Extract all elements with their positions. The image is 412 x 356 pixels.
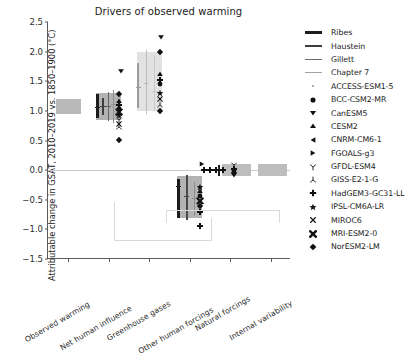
model-marker-hadgem3-gc31-ll: [200, 166, 208, 174]
legend-row-access-esm1-5[interactable]: ACCESS-ESM1-5: [300, 80, 408, 93]
legend-label: CESM2: [326, 122, 358, 131]
model-marker-canesm5: [158, 34, 166, 42]
zero-reference-line: [48, 170, 290, 171]
y-tick-label: 1.5: [29, 76, 48, 86]
legend-row-miroc6[interactable]: MIROC6: [300, 213, 408, 226]
legend-marker-point-icon: [300, 84, 326, 88]
study-range-bar: [113, 90, 114, 123]
y-tick-label: 0.5: [29, 136, 48, 146]
legend-line-swatch-icon: [300, 45, 326, 47]
legend-row-canesm5[interactable]: CanESM5: [300, 106, 408, 119]
legend-label: Haustein: [326, 42, 365, 51]
legend-marker-plus-filled-icon: [300, 189, 326, 197]
study-best-estimate-tick: [184, 196, 189, 197]
legend-row-fgoals-g3[interactable]: FGOALS-g3: [300, 147, 408, 160]
x-tick-mark: [109, 258, 110, 262]
legend-label: CanESM5: [326, 109, 367, 118]
chart-legend: RibesHausteinGillettChapter 7ACCESS-ESM1…: [300, 26, 408, 254]
model-marker-canesm5: [231, 172, 239, 180]
study-best-estimate-tick: [176, 186, 181, 187]
y-tick-label: −1.5: [22, 254, 48, 264]
legend-label: GISS-E2-1-G: [326, 175, 378, 184]
legend-label: ACCESS-ESM1-5: [326, 82, 393, 91]
legend-marker-tri-up-icon: [300, 176, 326, 184]
study-best-estimate-tick: [136, 87, 141, 88]
study-best-estimate-tick: [95, 107, 100, 108]
x-tick-mark: [149, 258, 150, 262]
legend-marker-triangle-right-icon: [300, 149, 326, 157]
x-tick-mark: [190, 258, 191, 262]
legend-label: MRI-ESM2-0: [326, 229, 377, 238]
study-best-estimate-tick: [100, 106, 105, 107]
legend-label: Chapter 7: [326, 68, 369, 77]
y-tick-label: −1.0: [22, 224, 48, 234]
model-marker-hadgem3-gc31-ll: [206, 166, 214, 174]
ghost-bracket-right: [166, 210, 280, 223]
legend-label: MIROC6: [326, 216, 362, 225]
legend-row-cnrm-cm6-1[interactable]: CNRM-CM6-1: [300, 133, 408, 146]
legend-row-bcc-csm2-mr[interactable]: BCC-CSM2-MR: [300, 93, 408, 106]
model-marker-hadgem3-gc31-ll: [219, 166, 227, 174]
legend-label: GFDL-ESM4: [326, 162, 376, 171]
legend-line-swatch-icon: [300, 31, 326, 34]
model-marker-noresm2-lm: [116, 136, 124, 144]
model-marker-canesm5: [117, 67, 125, 75]
legend-row-ribes[interactable]: Ribes: [300, 26, 408, 39]
legend-row-chapter-7[interactable]: Chapter 7: [300, 66, 408, 79]
legend-row-haustein[interactable]: Haustein: [300, 39, 408, 52]
legend-line-swatch-icon: [300, 59, 326, 61]
legend-marker-diamond-icon: [300, 243, 326, 251]
study-range-bar: [96, 94, 99, 118]
legend-line-swatch-icon: [300, 72, 326, 73]
model-marker-noresm2-lm: [156, 107, 164, 115]
legend-marker-circle-icon: [300, 96, 326, 104]
legend-row-cesm2[interactable]: CESM2: [300, 120, 408, 133]
legend-label: HadGEM3-GC31-LL: [326, 189, 405, 198]
legend-marker-x-filled-icon: [300, 230, 326, 238]
legend-row-mri-esm2-0[interactable]: MRI-ESM2-0: [300, 227, 408, 240]
ghost-arrow-stem: [114, 202, 115, 220]
y-tick-label: −0.5: [22, 195, 48, 205]
legend-marker-triangle-down-icon: [300, 109, 326, 117]
legend-marker-triangle-left-icon: [300, 136, 326, 144]
x-tick-mark: [230, 258, 231, 262]
legend-label: FGOALS-g3: [326, 149, 374, 158]
legend-row-hadgem3-gc31-ll[interactable]: HadGEM3-GC31-LL: [300, 187, 408, 200]
model-marker-giss-e2-1-g: [116, 124, 124, 132]
x-tick-mark: [68, 258, 69, 262]
study-best-estimate-tick: [106, 106, 111, 107]
legend-marker-x-icon: [300, 216, 326, 224]
y-axis-title: Attributable change in GSAT, 2010–2019 v…: [47, 44, 59, 281]
y-tick-label: 1.0: [29, 106, 48, 116]
model-marker-noresm2-lm: [156, 48, 164, 56]
assessment-band: [258, 164, 287, 176]
legend-row-noresm2-lm[interactable]: NorESM2-LM: [300, 240, 408, 253]
legend-marker-triangle-up-icon: [300, 122, 326, 130]
plot-area: Attributable change in GSAT, 2010–2019 v…: [47, 22, 290, 259]
x-tick-mark: [271, 258, 272, 262]
y-tick-label: 0.0: [29, 165, 48, 175]
model-marker-bcc-csm2-mr: [156, 80, 164, 88]
legend-label: NorESM2-LM: [326, 242, 380, 251]
legend-row-ipsl-cm6a-lr[interactable]: IPSL-CM6A-LR: [300, 200, 408, 213]
legend-row-gfdl-esm4[interactable]: GFDL-ESM4: [300, 160, 408, 173]
legend-row-gillett[interactable]: Gillett: [300, 53, 408, 66]
model-marker-hadgem3-gc31-ll: [213, 166, 221, 174]
legend-row-giss-e2-1-g[interactable]: GISS-E2-1-G: [300, 173, 408, 186]
legend-label: Ribes: [326, 28, 352, 37]
legend-marker-star-icon: [300, 203, 326, 211]
y-tick-label: 2.0: [29, 47, 48, 57]
legend-label: IPSL-CM6A-LR: [326, 202, 384, 211]
legend-marker-tri-down-icon: [300, 163, 326, 171]
y-tick-label: 2.5: [29, 17, 48, 27]
study-best-estimate-tick: [144, 83, 149, 84]
study-range-bar: [154, 55, 155, 111]
legend-label: CNRM-CM6-1: [326, 135, 382, 144]
legend-label: Gillett: [326, 55, 354, 64]
legend-label: BCC-CSM2-MR: [326, 95, 386, 104]
chart-title: Drivers of observed warming: [47, 6, 290, 17]
assessment-band: [56, 99, 81, 114]
